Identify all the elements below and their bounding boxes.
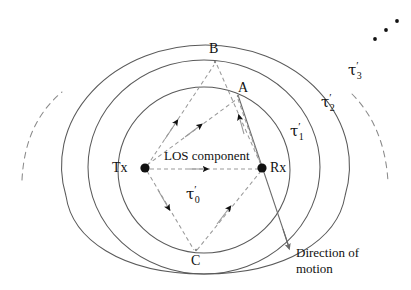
direction-of-motion-label-line2: motion <box>296 262 333 277</box>
ray-tx-to-B-arrow <box>165 121 177 139</box>
contour-tau3-solid-arc <box>61 45 349 196</box>
tx-label: Tx <box>112 160 128 176</box>
tx-marker-dot <box>140 163 149 172</box>
ray-tx-to-A-arrow <box>185 125 201 137</box>
ellipsis-dot-3 <box>395 19 399 23</box>
ray-C-to-rx <box>197 171 261 250</box>
los-component-label: LOS component <box>164 149 250 164</box>
tau0-subscript: 0 <box>195 194 200 205</box>
scatterer-label-A: A <box>238 80 248 96</box>
rx-marker-dot <box>257 163 266 172</box>
ellipsis-dot-1 <box>373 37 377 41</box>
ray-tx-to-C-arrow <box>158 190 169 209</box>
ray-C-to-rx-arrow <box>217 207 230 224</box>
contour-tau3-dashed-right <box>352 94 388 182</box>
contour-label-tau1: τ′1 <box>290 120 304 142</box>
contour-label-tau3: τ′3 <box>348 59 362 81</box>
contour-label-tau2: τ′2 <box>321 91 335 113</box>
delay-contour-figure: Tx Rx B A C LOS component τ′0 τ′1 τ′2 τ′… <box>0 0 411 290</box>
tau3-subscript: 3 <box>357 70 362 81</box>
rx-label: Rx <box>270 160 286 176</box>
contour-tau3-dashed-left <box>22 92 62 180</box>
los-delay-label-tau0: τ′0 <box>186 183 200 205</box>
scatterer-label-B: B <box>209 41 218 57</box>
terminal-markers <box>140 163 266 172</box>
scatterer-B-dot <box>214 61 216 63</box>
ellipsis-dot-2 <box>384 28 388 32</box>
tau1-subscript: 1 <box>299 131 304 142</box>
more-contours-ellipsis <box>373 19 399 41</box>
scatterer-label-C: C <box>191 253 200 269</box>
direction-of-motion-label-line1: Direction of <box>296 246 359 261</box>
tau2-subscript: 2 <box>330 102 335 113</box>
scatterer-C-dot <box>195 249 197 251</box>
